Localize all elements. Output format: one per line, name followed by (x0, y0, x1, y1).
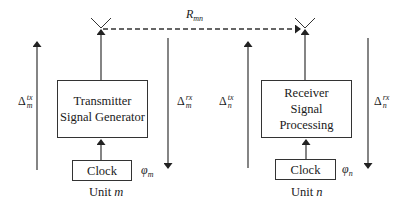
unit-n-caption: Unit n (291, 186, 323, 198)
delta-symbol: Δ (177, 94, 185, 108)
phase-m-base: φ (141, 163, 148, 177)
antenna-icon (91, 18, 111, 28)
transmitter-block-line1: Transmitter (74, 93, 132, 109)
unit-m-caption: Unit m (89, 186, 123, 198)
delta-symbol: Δ (18, 94, 26, 108)
transmitter-block-line2: Signal Generator (60, 109, 145, 125)
link-range-label: Rmn (186, 8, 203, 22)
phase-m-label: φm (141, 164, 153, 178)
delay-sub: m (27, 102, 33, 110)
phase-n-label: φn (342, 163, 353, 177)
receiver-block-line2: Signal Processing (262, 101, 351, 133)
phase-m-sub: m (148, 170, 154, 179)
delta-symbol: Δ (374, 94, 382, 108)
two-unit-sync-diagram: Rmn Transmitter Signal Generator Receive… (0, 0, 403, 207)
receiver-block: Receiver Signal Processing (261, 80, 352, 138)
delay-sub: n (383, 102, 390, 110)
antenna-icon (295, 18, 315, 28)
unit-m-var: m (114, 185, 123, 199)
receiver-block-line1: Receiver (284, 85, 328, 101)
phase-n-sub: n (349, 169, 353, 178)
clock-n-block: Clock (275, 159, 336, 180)
clock-n-label: Clock (291, 162, 321, 178)
phase-n-base: φ (342, 162, 349, 176)
link-label-sub: mn (193, 14, 203, 23)
unit-m-prefix: Unit (89, 185, 111, 199)
delay-sub: n (228, 102, 234, 110)
delay-sub: m (186, 102, 193, 110)
delta-symbol: Δ (219, 94, 227, 108)
delay-rx-n-label: Δrxn (374, 94, 389, 110)
delay-rx-m-label: Δrxm (177, 94, 192, 110)
transmitter-block: Transmitter Signal Generator (57, 80, 148, 138)
delay-tx-n-label: Δtxn (219, 94, 234, 110)
unit-n-var: n (316, 185, 322, 199)
delay-tx-m-label: Δtxm (18, 94, 33, 110)
clock-m-label: Clock (87, 163, 117, 179)
unit-n-prefix: Unit (291, 185, 313, 199)
clock-m-block: Clock (72, 160, 132, 181)
